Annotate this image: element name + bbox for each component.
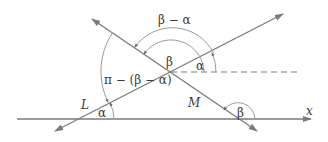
arc-alpha xyxy=(212,53,216,72)
label-pi-minus: π − (β − α) xyxy=(104,73,172,87)
label-beta-minus-alpha: β − α xyxy=(158,13,191,27)
label-line-L: L xyxy=(80,98,89,112)
arc-beta xyxy=(144,40,204,72)
label-line-M: M xyxy=(187,96,201,110)
label-alpha-bottom: α xyxy=(98,106,106,120)
arc-pi-minus xyxy=(101,32,113,102)
label-beta-bottom: β xyxy=(237,106,244,120)
label-x-axis: x xyxy=(306,104,313,118)
arc-alpha-bottom xyxy=(110,103,114,119)
label-alpha-center: α xyxy=(196,59,204,73)
lines-angle-diagram: β − α β α π − (β − α) L M α β x xyxy=(0,0,328,142)
label-beta-center: β xyxy=(166,55,173,69)
